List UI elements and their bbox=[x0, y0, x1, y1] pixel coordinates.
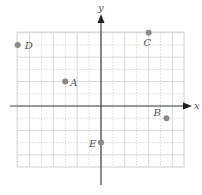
y-axis bbox=[98, 14, 105, 185]
point-label: A bbox=[69, 77, 77, 88]
point-marker bbox=[62, 79, 68, 85]
coordinate-plane: x y ABCDE bbox=[0, 0, 202, 195]
x-axis-label: x bbox=[194, 100, 200, 111]
point-label: E bbox=[88, 138, 97, 149]
point-marker bbox=[15, 42, 21, 48]
point-marker bbox=[163, 115, 169, 121]
point-a: A bbox=[62, 77, 77, 88]
point-marker bbox=[146, 30, 152, 36]
point-label: C bbox=[144, 37, 152, 48]
point-label: D bbox=[24, 40, 33, 51]
y-axis-label: y bbox=[97, 2, 104, 13]
point-label: B bbox=[152, 107, 160, 118]
point-marker bbox=[98, 140, 104, 146]
point-b: B bbox=[152, 107, 169, 121]
